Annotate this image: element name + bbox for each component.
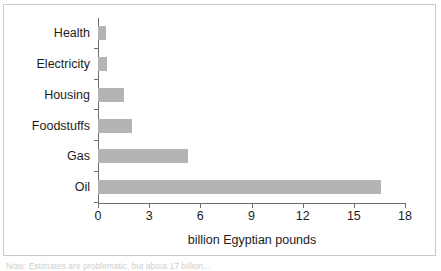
category-label: Electricity xyxy=(37,56,90,72)
x-axis-tick-label: 0 xyxy=(95,209,102,224)
category-label: Oil xyxy=(75,179,90,195)
category-label: Gas xyxy=(67,148,90,164)
x-axis-tick-label: 6 xyxy=(197,209,204,224)
bar xyxy=(98,119,132,133)
x-axis-tick xyxy=(354,204,355,208)
bar xyxy=(98,26,106,40)
x-axis-tick-label: 9 xyxy=(248,209,255,224)
bar-row: Foodstuffs xyxy=(98,111,405,142)
x-axis-tick xyxy=(149,204,150,208)
x-axis-tick-label: 15 xyxy=(347,209,361,224)
x-axis-tick xyxy=(252,204,253,208)
category-label: Foodstuffs xyxy=(32,118,90,134)
bar-row: Oil xyxy=(98,172,405,203)
plot-area: HealthElectricityHousingFoodstuffsGasOil xyxy=(98,18,405,203)
chart-screenshot: HealthElectricityHousingFoodstuffsGasOil… xyxy=(0,0,441,271)
x-axis-tick xyxy=(200,204,201,208)
x-axis-tick-label: 18 xyxy=(398,209,412,224)
bar xyxy=(98,149,188,163)
bar-row: Housing xyxy=(98,80,405,111)
category-label: Health xyxy=(54,25,90,41)
bar xyxy=(98,57,107,71)
y-axis-tick xyxy=(94,202,98,203)
x-axis-tick-label: 12 xyxy=(296,209,310,224)
x-axis-title: billion Egyptian pounds xyxy=(98,233,406,247)
x-axis-tick-label: 3 xyxy=(146,209,153,224)
bar xyxy=(98,180,381,194)
x-axis-tick xyxy=(98,204,99,208)
bar-row: Electricity xyxy=(98,49,405,80)
figure-note: Note: Estimates are problematic, but abo… xyxy=(6,261,426,271)
category-label: Housing xyxy=(44,87,90,103)
bar-row: Gas xyxy=(98,141,405,172)
x-axis-tick xyxy=(303,204,304,208)
bar-row: Health xyxy=(98,18,405,49)
x-axis-tick xyxy=(405,204,406,208)
bar xyxy=(98,88,124,102)
figure-frame: HealthElectricityHousingFoodstuffsGasOil… xyxy=(3,4,436,256)
